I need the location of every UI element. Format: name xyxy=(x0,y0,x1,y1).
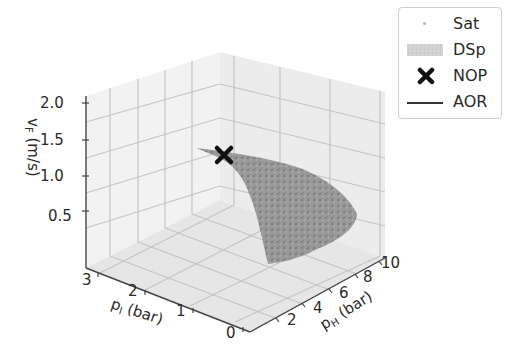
region-swatch-icon xyxy=(407,44,443,56)
x-tick-10: 10 xyxy=(381,254,400,272)
legend-label-sat: Sat xyxy=(453,14,479,33)
dot-icon xyxy=(423,22,426,25)
z-axis-label: vF (m/s) xyxy=(23,118,42,177)
y-tick-1: 1 xyxy=(176,302,186,320)
y-tick-2: 2 xyxy=(128,282,138,300)
y-tick-3: 3 xyxy=(82,271,92,289)
legend-item-aor: AOR xyxy=(399,90,501,116)
z-tick-1.5: 1.5 xyxy=(40,131,64,149)
z-tick-0.5: 0.5 xyxy=(48,207,72,225)
x-tick-2: 2 xyxy=(287,311,297,329)
legend: Sat DSp NOP AOR xyxy=(398,7,502,119)
legend-item-nop: NOP xyxy=(399,64,501,90)
legend-label-aor: AOR xyxy=(453,92,487,111)
x-tick-8: 8 xyxy=(363,268,373,286)
legend-item-sat: Sat xyxy=(399,12,501,38)
line-icon xyxy=(407,102,443,104)
z-tick-1.0: 1.0 xyxy=(40,167,64,185)
legend-item-dsp: DSp xyxy=(399,38,501,64)
legend-label-dsp: DSp xyxy=(453,40,486,59)
x-marker-icon xyxy=(417,67,453,85)
y-tick-0: 0 xyxy=(226,324,236,342)
legend-label-nop: NOP xyxy=(453,66,487,85)
z-tick-2.0: 2.0 xyxy=(40,94,64,112)
